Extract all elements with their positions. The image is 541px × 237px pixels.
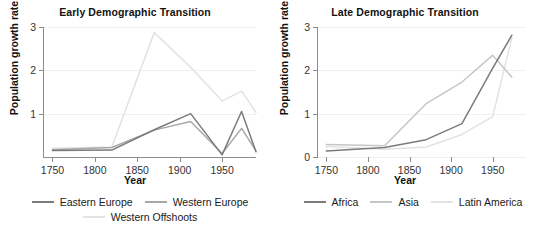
series-line-western-offshoots xyxy=(52,33,256,149)
gridline-y-0 xyxy=(318,157,526,158)
legend-item-africa[interactable]: Africa xyxy=(304,196,359,208)
y-tick-label-3: 3 xyxy=(304,21,310,33)
x-tick-1850 xyxy=(137,157,138,162)
plot-panel-left: 12317501800185019001950 xyxy=(44,27,256,157)
x-tick-1750 xyxy=(326,157,327,162)
y-tick-label-1: 1 xyxy=(304,108,310,120)
y-tick-label-2: 2 xyxy=(30,64,36,76)
x-tick-1850 xyxy=(410,157,411,162)
legend-item-eastern-europe[interactable]: Eastern Europe xyxy=(32,196,133,208)
x-tick-1750 xyxy=(52,157,53,162)
x-tick-1900 xyxy=(180,157,181,162)
x-axis-label-left: Year xyxy=(0,174,270,186)
legend-label: Western Europe xyxy=(173,196,249,208)
x-tick-1800 xyxy=(368,157,369,162)
legend-label: Eastern Europe xyxy=(60,196,133,208)
legend-line-icon xyxy=(370,201,392,203)
x-tick-1950 xyxy=(222,157,223,162)
legend-item-western-offshoots[interactable]: Western Offshoots xyxy=(83,211,198,223)
legend-line-icon xyxy=(145,201,167,203)
y-tick-label-0: 0 xyxy=(304,151,310,163)
x-tick-1950 xyxy=(493,157,494,162)
y-tick-label-2: 2 xyxy=(304,64,310,76)
chart-figure: Early Demographic Transition Population … xyxy=(0,0,541,237)
legend-label: Latin America xyxy=(459,196,523,208)
legend-line-icon xyxy=(431,201,453,203)
facet-title-left: Early Demographic Transition xyxy=(0,6,270,18)
legend-line-icon xyxy=(304,201,326,203)
y-axis-label-left: Population growth rate xyxy=(8,0,20,128)
x-tick-1900 xyxy=(451,157,452,162)
legend-row: Western Offshoots xyxy=(0,211,280,223)
series-line-africa xyxy=(326,35,512,151)
legend-item-western-europe[interactable]: Western Europe xyxy=(145,196,249,208)
legend-label: Africa xyxy=(332,196,359,208)
facet-title-right: Late Demographic Transition xyxy=(270,6,540,18)
x-axis-label-right: Year xyxy=(270,174,540,186)
legend-right: AfricaAsiaLatin America xyxy=(285,196,541,208)
legend-left: Eastern EuropeWestern EuropeWestern Offs… xyxy=(0,196,280,223)
x-tick-1800 xyxy=(95,157,96,162)
legend-item-latin-america[interactable]: Latin America xyxy=(431,196,523,208)
legend-row: AfricaAsiaLatin America xyxy=(285,196,541,208)
y-tick-label-1: 1 xyxy=(30,108,36,120)
y-tick-0 xyxy=(313,157,318,158)
legend-row: Eastern EuropeWestern Europe xyxy=(0,196,280,208)
legend-line-icon xyxy=(83,216,105,218)
y-tick-label-3: 3 xyxy=(30,21,36,33)
facet-early-demographic-transition: Early Demographic Transition Population … xyxy=(0,0,270,190)
series-line-latin-america xyxy=(326,37,512,149)
legend-label: Western Offshoots xyxy=(111,211,198,223)
series-line-asia xyxy=(326,55,512,146)
y-axis-label-right: Population growth rate xyxy=(278,0,290,128)
series-layer xyxy=(44,27,256,157)
series-layer xyxy=(318,27,526,157)
x-axis-line-left xyxy=(43,157,256,158)
plot-panel-right: 012317501800185019001950 xyxy=(318,27,526,157)
legend-label: Asia xyxy=(398,196,418,208)
facet-late-demographic-transition: Late Demographic Transition Population g… xyxy=(270,0,540,190)
legend-line-icon xyxy=(32,201,54,203)
legend-item-asia[interactable]: Asia xyxy=(370,196,418,208)
